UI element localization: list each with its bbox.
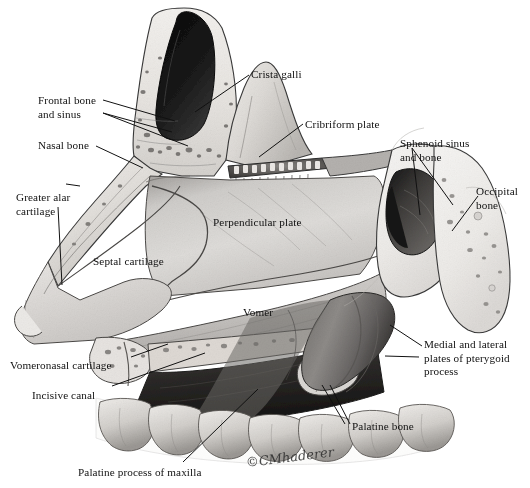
label-vomer: Vomer: [243, 306, 273, 320]
label-perpendicular-plate: Perpendicular plate: [213, 216, 302, 230]
label-vomeronasal-cartilage: Vomeronasal cartilage: [10, 359, 112, 373]
frontal-bone-region: [133, 8, 236, 176]
label-palatine-process-of-maxilla: Palatine process of maxilla: [78, 466, 202, 480]
label-greater-alar-cartilage: Greater alar cartilage: [16, 191, 70, 218]
label-septal-cartilage: Septal cartilage: [93, 255, 164, 269]
label-frontal-bone-and-sinus: Frontal bone and sinus: [38, 94, 96, 121]
label-nasal-bone: Nasal bone: [38, 139, 89, 153]
label-crista-galli: Crista galli: [251, 68, 302, 82]
anatomy-figure-page: Frontal bone and sinusNasal boneGreater …: [0, 0, 530, 488]
label-sphenoid-sinus-and-bone: Sphenoid sinus and bone: [400, 137, 469, 164]
label-incisive-canal: Incisive canal: [32, 389, 95, 403]
label-medial-and-lateral-plates-of-pterygoid-process: Medial and lateral plates of pterygoid p…: [424, 338, 510, 379]
label-occipital-bone: Occipital bone: [476, 185, 518, 212]
label-cribriform-plate: Cribriform plate: [305, 118, 380, 132]
label-palatine-bone: Palatine bone: [352, 420, 414, 434]
